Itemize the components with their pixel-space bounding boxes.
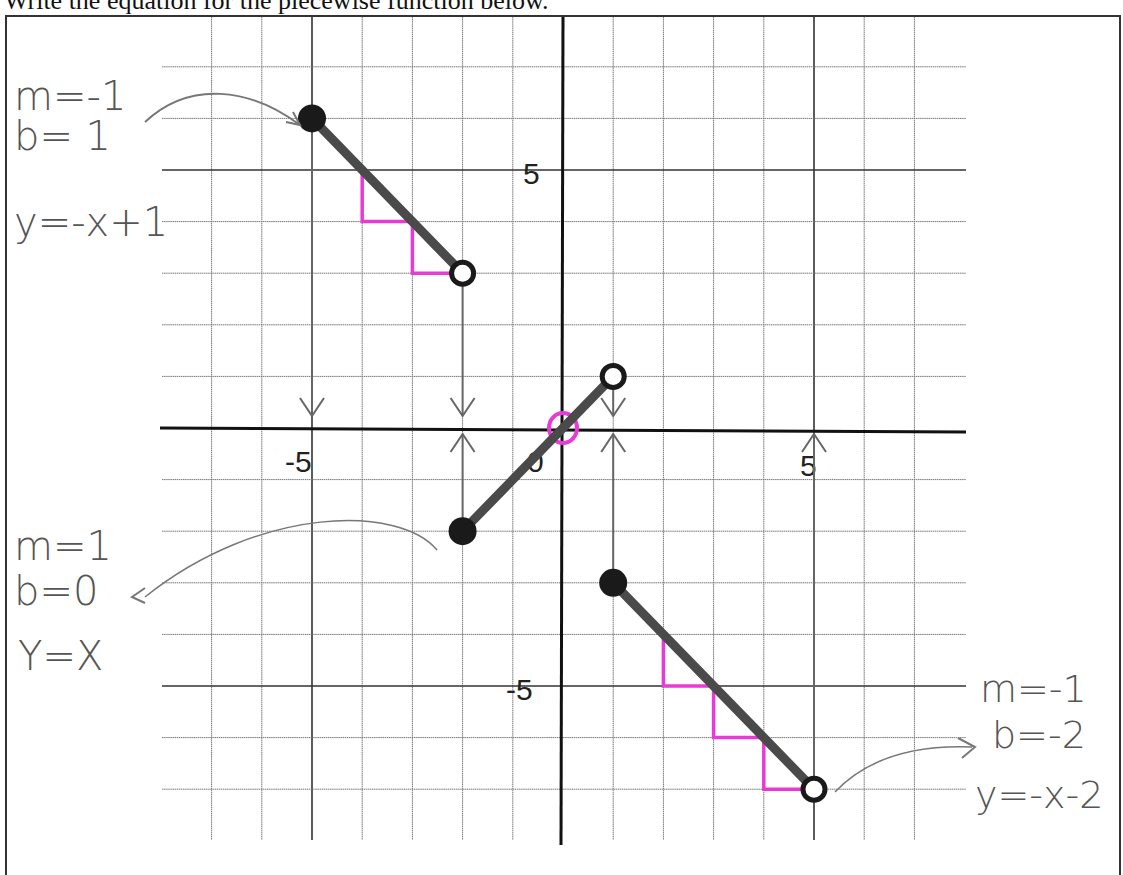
closed-endpoint: [449, 517, 477, 545]
note1-intercept: b= 1: [14, 113, 111, 159]
note3-intercept: b=-2: [992, 713, 1086, 757]
segment-line: [463, 376, 614, 531]
note2-intercept: b=0: [14, 568, 98, 614]
segment-line: [312, 118, 463, 273]
y-tick-minus5: -5: [506, 673, 533, 706]
note3-equation: y=-x-2: [975, 773, 1103, 817]
note3-slope: m=-1: [980, 667, 1087, 711]
handwritten-notes: m=-1 b= 1 y=-x+1 m=1 b=0 Y=X m=-1 b=-2 y…: [14, 73, 1103, 817]
note2-equation: Y=X: [18, 633, 103, 679]
arrowhead-3: [958, 738, 975, 758]
curved-arrow-2: [145, 521, 437, 597]
open-endpoint: [452, 262, 474, 284]
note2-slope: m=1: [14, 523, 112, 569]
x-tick-minus5: -5: [285, 445, 312, 478]
closed-endpoint: [298, 104, 326, 132]
closed-endpoint: [599, 569, 627, 597]
curved-arrow-3: [835, 747, 972, 792]
open-endpoint: [602, 365, 624, 387]
arrowhead-2: [132, 588, 145, 603]
curved-arrow-1: [145, 94, 300, 125]
open-endpoint: [803, 778, 825, 800]
note1-equation: y=-x+1: [14, 199, 168, 245]
y-tick-5: 5: [523, 157, 540, 190]
